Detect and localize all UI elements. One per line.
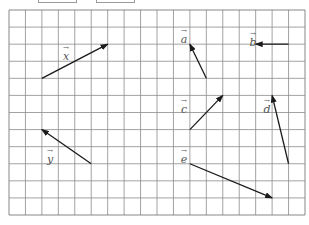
label-vector-e: →e <box>178 148 190 165</box>
vector-grid-figure: →x →y →a →b →c →d →e <box>0 0 309 225</box>
label-vector-b: →b <box>247 31 259 48</box>
label-vector-y: →y <box>44 148 56 165</box>
label-vector-d: →d <box>261 98 273 115</box>
label-vector-c: →c <box>178 98 190 115</box>
label-vector-x: →x <box>60 45 72 62</box>
label-vector-a: →a <box>178 28 190 45</box>
